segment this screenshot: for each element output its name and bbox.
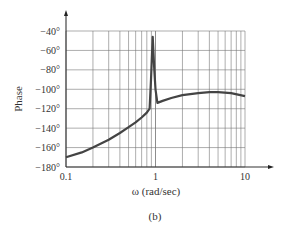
y-tick-label: −160° — [35, 142, 60, 153]
x-axis-label: ω (rad/sec) — [132, 185, 181, 198]
y-tick-label: −120° — [35, 103, 60, 114]
x-tick-labels: 0.1110 — [60, 171, 250, 182]
y-tick-label: −140° — [35, 123, 60, 134]
y-tick-labels: −40°−60°−80°−100°−120°−140°−160°−180° — [35, 26, 60, 173]
y-tick-label: −60° — [40, 45, 60, 56]
x-tick-label: 0.1 — [60, 171, 73, 182]
figure-caption: (b) — [149, 210, 162, 223]
y-axis-label: Phase — [12, 86, 24, 112]
y-tick-label: −180° — [35, 162, 60, 173]
y-tick-label: −80° — [40, 64, 60, 75]
x-axis-arrow-icon — [268, 165, 274, 169]
y-tick-label: −100° — [35, 84, 60, 95]
y-tick-label: −40° — [40, 26, 60, 37]
x-tick-label: 1 — [153, 171, 158, 182]
x-tick-label: 10 — [240, 171, 250, 182]
y-axis-arrow-icon — [64, 10, 68, 16]
phase-plot: −40°−60°−80°−100°−120°−140°−160°−180° 0.… — [0, 0, 290, 232]
